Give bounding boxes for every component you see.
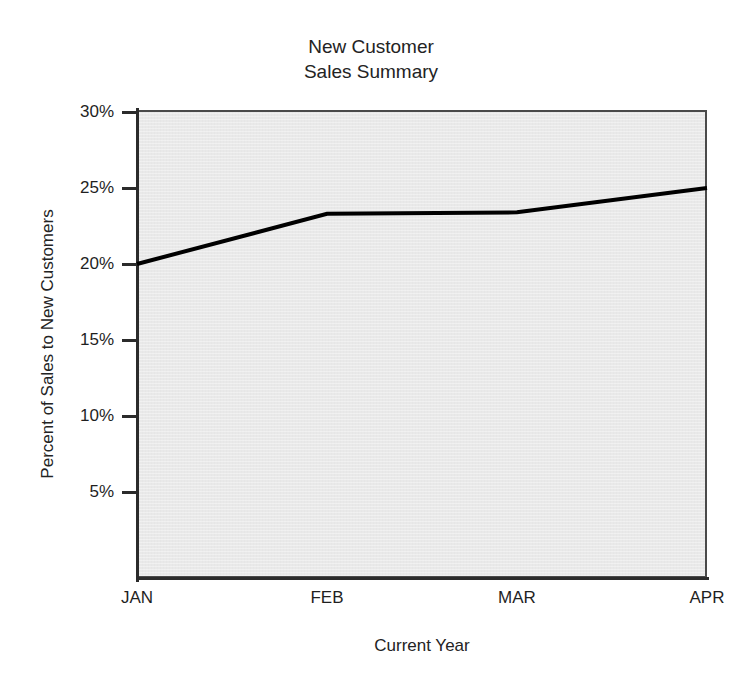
x-axis-title: Current Year: [137, 636, 707, 656]
y-axis-title: Percent of Sales to New Customers: [38, 110, 58, 578]
x-tick-label: MAR: [472, 589, 562, 607]
y-tick-mark: [122, 339, 137, 342]
x-tick-label: JAN: [92, 589, 182, 607]
y-tick-mark: [122, 491, 137, 494]
x-tick-label: FEB: [282, 589, 372, 607]
y-tick-mark: [122, 415, 137, 418]
y-tick-mark: [122, 187, 137, 190]
y-tick-mark: [122, 111, 137, 114]
x-tick-label: APR: [662, 589, 742, 607]
chart-title: New Customer Sales Summary: [0, 34, 742, 84]
y-tick-mark: [122, 263, 137, 266]
series-line-percent-sales: [137, 188, 707, 264]
series-line-chart: [137, 110, 707, 578]
